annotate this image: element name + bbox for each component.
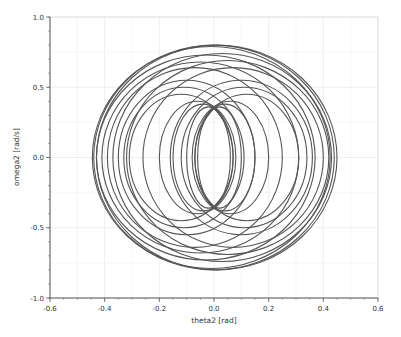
y-tick-label: 0.5 bbox=[33, 84, 44, 92]
y-tick-label: 1.0 bbox=[33, 14, 44, 22]
x-tick-label: -0.4 bbox=[98, 305, 112, 313]
y-axis-title: omega2 [rad/s] bbox=[12, 128, 21, 186]
x-tick-label: 0.0 bbox=[208, 305, 219, 313]
x-tick-label: 0.4 bbox=[318, 305, 330, 313]
x-tick-label: -0.2 bbox=[152, 305, 166, 313]
x-tick-label: -0.6 bbox=[43, 305, 57, 313]
y-tick-label: -1.0 bbox=[30, 295, 44, 303]
y-tick-label: -0.5 bbox=[30, 224, 44, 232]
x-tick-label: 0.2 bbox=[263, 305, 274, 313]
x-axis-title: theta2 [rad] bbox=[191, 316, 236, 325]
x-tick-label: 0.6 bbox=[372, 305, 384, 313]
y-tick-label: 0.0 bbox=[33, 154, 44, 162]
phase-plot: -0.6-0.4-0.20.00.20.40.61.00.50.0-0.5-1.… bbox=[0, 0, 401, 337]
